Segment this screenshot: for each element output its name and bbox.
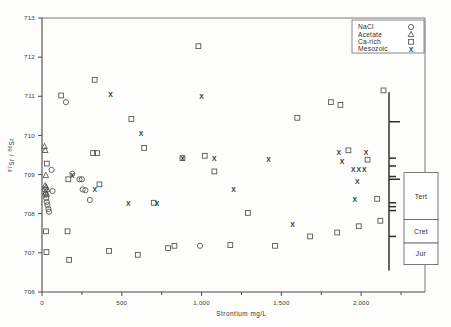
x-tick-label: 2,000 [353, 299, 370, 306]
data-point-ca-rich [172, 243, 177, 248]
data-point-nacl [63, 100, 68, 105]
data-point-ca-rich [295, 115, 300, 120]
data-point-nacl [49, 167, 54, 172]
data-point-ca-rich [228, 243, 233, 248]
data-point-ca-rich [67, 258, 72, 263]
data-point-ca-rich [44, 161, 49, 166]
era-label-tert: Tert [415, 193, 428, 200]
data-point-mesozoic: X [266, 156, 271, 163]
y-tick-label: 713 [24, 14, 35, 21]
data-point-ca-rich [135, 252, 140, 257]
x-tick-label: 1,000 [193, 299, 210, 306]
data-point-ca-rich [97, 182, 102, 187]
data-point-mesozoic: X [139, 130, 144, 137]
data-point-ca-rich [378, 218, 383, 223]
data-point-mesozoic: X [70, 172, 75, 179]
legend-marker-x: X [409, 46, 414, 53]
y-tick-label: 708 [24, 210, 35, 217]
x-tick-label: 0 [40, 299, 44, 306]
data-point-ca-rich [202, 153, 207, 158]
data-point-mesozoic: X [180, 155, 185, 162]
y-axis-title-text: 87Sr / 86Sr [8, 138, 16, 172]
data-point-mesozoic: X [108, 91, 113, 98]
data-point-ca-rich [59, 93, 64, 98]
data-point-ca-rich [381, 88, 386, 93]
data-point-mesozoic: X [340, 158, 345, 165]
data-point-mesozoic: X [355, 178, 360, 185]
era-label-cret: Cret [414, 228, 428, 235]
data-point-mesozoic: X [199, 93, 204, 100]
y-axis-title: 87Sr / 86Sr [8, 138, 16, 172]
data-point-ca-rich [308, 234, 313, 239]
data-point-ca-rich [107, 249, 112, 254]
data-point-ca-rich [338, 102, 343, 107]
chart-figure: 70670770870971071171271305001,0001,5002,… [0, 0, 451, 327]
scatter-plot: 70670770870971071171271305001,0001,5002,… [0, 0, 451, 327]
x-tick-label: 1,500 [273, 299, 290, 306]
data-point-mesozoic: X [92, 186, 97, 193]
data-point-mesozoic: X [337, 149, 342, 156]
y-tick-label: 711 [25, 92, 36, 99]
data-point-nacl [50, 188, 55, 193]
data-point-nacl [87, 197, 92, 202]
data-point-mesozoic: X [290, 221, 295, 228]
data-point-ca-rich [328, 100, 333, 105]
data-point-mesozoic: X [353, 196, 358, 203]
data-point-mesozoic: X [231, 186, 236, 193]
y-axis-text-part: Sr [8, 138, 15, 146]
data-point-ca-rich [44, 229, 49, 234]
data-point-ca-rich [142, 146, 147, 151]
legend-label-acetate: Acetate [358, 31, 382, 38]
data-point-ca-rich [212, 169, 217, 174]
data-point-ca-rich [365, 157, 370, 162]
data-point-ca-rich [335, 230, 340, 235]
data-point-acetate [43, 172, 49, 177]
legend-label-nacl: NaCl [358, 23, 374, 30]
data-point-ca-rich [166, 246, 171, 251]
data-point-mesozoic: X [126, 200, 131, 207]
data-point-nacl [197, 243, 202, 248]
legend-label-mesozoic: Mesozoic [358, 45, 388, 52]
y-tick-label: 709 [24, 171, 35, 178]
y-tick-label: 710 [24, 132, 35, 139]
data-point-ca-rich [356, 224, 361, 229]
data-point-mesozoic: X [364, 149, 369, 156]
data-point-ca-rich [375, 196, 380, 201]
y-tick-label: 706 [24, 288, 35, 295]
era-label-jur: Jur [416, 250, 427, 257]
data-point-ca-rich [196, 44, 201, 49]
data-point-ca-rich [245, 211, 250, 216]
legend-label-ca-rich: Ca-rich [358, 38, 381, 45]
data-point-mesozoic: X [356, 166, 361, 173]
data-point-ca-rich [129, 117, 134, 122]
data-point-ca-rich [65, 229, 70, 234]
data-point-ca-rich [346, 148, 351, 153]
data-point-mesozoic: X [362, 166, 367, 173]
data-point-ca-rich [273, 243, 278, 248]
y-axis-text-part: / [8, 152, 15, 159]
data-point-ca-rich [92, 77, 97, 82]
data-point-mesozoic: X [212, 155, 217, 162]
y-tick-label: 712 [24, 53, 35, 60]
data-point-ca-rich [44, 250, 49, 255]
x-axis-title: Strontium mg/L [216, 310, 266, 318]
data-point-mesozoic: X [155, 200, 160, 207]
x-tick-label: 500 [116, 299, 127, 306]
y-tick-label: 707 [24, 249, 35, 256]
data-point-mesozoic: X [351, 166, 356, 173]
